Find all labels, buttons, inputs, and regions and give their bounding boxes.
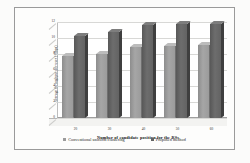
bar-face [108,32,119,118]
bar-face [164,46,175,118]
x-tick-label: 50 [176,128,179,131]
bar-face [142,25,153,118]
bar-face [198,45,209,118]
legend-item-conventional: Conventional uniform clustering [63,137,125,142]
bar-side [187,22,190,118]
plot-area: 024681012 2030405060 Average throughput … [49,22,227,126]
bar-face [96,54,107,118]
y-tick-label: 12 [52,20,55,23]
gridline-depth [49,23,57,30]
gridline [57,118,227,119]
square-marker-icon [151,138,154,141]
chart-floor [49,118,227,126]
bar-conventional [62,56,73,118]
bar-side [153,23,156,118]
bar-proposed [142,25,153,118]
bar-face [62,56,73,118]
chart-frame: 024681012 2030405060 Average throughput … [14,7,235,150]
bar-side [85,34,88,118]
bar-side [119,29,122,118]
bar-conventional [96,54,107,118]
bar-proposed [210,24,221,118]
bar-face [210,24,221,118]
x-tick-label: 30 [108,128,111,131]
bar-face [130,47,141,118]
chart-legend: Conventional uniform clustering Proposed… [15,137,234,142]
x-tick-label: 20 [74,128,77,131]
chart-figure: 024681012 2030405060 Average throughput … [0,0,250,163]
gridline-depth [49,103,57,110]
y-tick-label: 0 [53,116,55,119]
bar-face [74,36,85,118]
x-tick-label: 40 [142,128,145,131]
bar-proposed [176,24,187,118]
y-tick-label: 10 [52,36,55,39]
x-tick-label: 60 [210,128,213,131]
square-marker-icon [63,138,66,141]
y-axis-label: Average throughput per user (Mbps) [54,45,58,102]
legend-label: Proposed method [156,137,186,142]
gridline [57,22,227,23]
bar-side [221,22,224,118]
bar-conventional [130,47,141,118]
bar-face [176,24,187,118]
legend-item-proposed: Proposed method [151,137,186,142]
bar-conventional [164,46,175,118]
bar-proposed [74,36,85,118]
bar-proposed [108,32,119,118]
legend-label: Conventional uniform clustering [68,137,125,142]
bar-conventional [198,45,209,118]
